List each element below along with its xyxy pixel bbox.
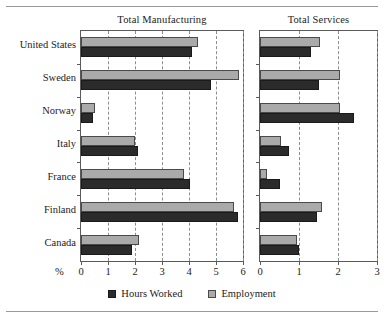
x-tick-mark xyxy=(108,261,109,265)
legend-item: Employment xyxy=(208,288,275,299)
category-label-canada: Canada xyxy=(2,237,76,248)
gridline xyxy=(299,31,300,261)
category-tick-mark xyxy=(256,64,260,65)
x-tick-label: 3 xyxy=(369,266,384,277)
bar-employment xyxy=(260,169,267,179)
x-tick-mark xyxy=(260,261,261,265)
category-tick-mark xyxy=(256,130,260,131)
category-tick-mark xyxy=(77,64,81,65)
bar-hours-worked xyxy=(81,212,238,222)
chart-figure: Total Manufacturing Total Services Unite… xyxy=(0,0,384,319)
x-tick-mark xyxy=(299,261,300,265)
bar-employment xyxy=(260,37,320,47)
bar-employment xyxy=(81,235,139,245)
bar-employment xyxy=(81,169,184,179)
bar-employment xyxy=(81,103,95,113)
panel-title-services: Total Services xyxy=(259,14,378,25)
gridline xyxy=(377,31,378,261)
category-label-sweden: Sweden xyxy=(2,72,76,83)
gridline xyxy=(189,31,190,261)
category-tick-mark xyxy=(256,228,260,229)
bar-hours-worked xyxy=(81,146,138,156)
bar-hours-worked xyxy=(260,179,280,189)
x-tick-mark xyxy=(243,261,244,265)
bar-hours-worked xyxy=(260,245,299,255)
legend-item: Hours Worked xyxy=(108,288,182,299)
x-tick-label: 0 xyxy=(73,266,89,277)
bar-hours-worked xyxy=(81,80,211,90)
gridline xyxy=(243,31,244,261)
x-tick-mark xyxy=(338,261,339,265)
bottom-rule xyxy=(6,311,378,312)
panel-title-manufacturing: Total Manufacturing xyxy=(80,14,244,25)
x-tick-mark xyxy=(81,261,82,265)
gridline xyxy=(162,31,163,261)
bar-hours-worked xyxy=(260,80,319,90)
x-tick-label: 6 xyxy=(235,266,251,277)
bar-hours-worked xyxy=(260,47,311,57)
x-tick-label: 5 xyxy=(208,266,224,277)
bar-employment xyxy=(81,202,234,212)
category-tick-mark xyxy=(77,97,81,98)
bar-hours-worked xyxy=(81,245,132,255)
axis-unit-label: % xyxy=(55,266,64,277)
category-label-norway: Norway xyxy=(2,105,76,116)
plot-area-services xyxy=(259,30,378,262)
category-tick-mark xyxy=(77,130,81,131)
bar-employment xyxy=(260,136,281,146)
bar-employment xyxy=(260,202,322,212)
x-tick-mark xyxy=(189,261,190,265)
x-tick-label: 2 xyxy=(330,266,346,277)
legend-label: Hours Worked xyxy=(121,288,182,299)
bar-hours-worked xyxy=(81,47,192,57)
category-label-italy: Italy xyxy=(2,138,76,149)
gridline xyxy=(216,31,217,261)
x-tick-mark xyxy=(216,261,217,265)
plot-area-manufacturing xyxy=(80,30,244,262)
square-swatch-gray xyxy=(208,290,216,298)
x-tick-label: 0 xyxy=(252,266,268,277)
bar-employment xyxy=(81,37,198,47)
category-tick-mark xyxy=(77,228,81,229)
bar-employment xyxy=(260,103,340,113)
category-label-finland: Finland xyxy=(2,204,76,215)
top-rule xyxy=(6,6,378,7)
legend-label: Employment xyxy=(221,288,275,299)
gridline xyxy=(338,31,339,261)
x-tick-label: 2 xyxy=(127,266,143,277)
bar-employment xyxy=(260,235,297,245)
category-tick-mark xyxy=(77,195,81,196)
category-axis-labels: United StatesSwedenNorwayItalyFranceFinl… xyxy=(0,30,76,262)
category-tick-mark xyxy=(256,195,260,196)
x-tick-label: 3 xyxy=(154,266,170,277)
square-swatch-dark xyxy=(108,290,116,298)
x-tick-mark xyxy=(162,261,163,265)
chart-legend: Hours WorkedEmployment xyxy=(0,288,384,299)
bar-hours-worked xyxy=(260,113,354,123)
bar-hours-worked xyxy=(81,113,93,123)
category-label-united-states: United States xyxy=(2,39,76,50)
x-tick-label: 1 xyxy=(291,266,307,277)
x-tick-label: 1 xyxy=(100,266,116,277)
bar-employment xyxy=(260,70,340,80)
x-tick-mark xyxy=(135,261,136,265)
bar-employment xyxy=(81,70,239,80)
bar-hours-worked xyxy=(260,146,289,156)
category-tick-mark xyxy=(77,162,81,163)
bar-hours-worked xyxy=(81,179,190,189)
category-tick-mark xyxy=(256,97,260,98)
x-tick-mark xyxy=(377,261,378,265)
x-tick-label: 4 xyxy=(181,266,197,277)
category-label-france: France xyxy=(2,171,76,182)
category-tick-mark xyxy=(256,162,260,163)
bar-employment xyxy=(81,136,135,146)
bar-hours-worked xyxy=(260,212,317,222)
